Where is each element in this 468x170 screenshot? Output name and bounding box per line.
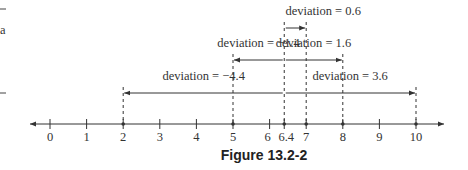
left-margin-fragment: a — [0, 9, 6, 93]
deviation-arrows: deviation = 0.6deviation = −1.4deviation… — [124, 4, 415, 93]
tick-label-10: 10 — [410, 130, 423, 144]
tick-label-6: 6 — [264, 130, 270, 144]
tick-label-4: 4 — [193, 130, 200, 144]
tick-label-7: 7 — [303, 130, 309, 144]
deviation-label: deviation = 1.6 — [276, 36, 351, 50]
figure-caption: Figure 13.2-2 — [0, 147, 468, 163]
tick-label-1: 1 — [83, 130, 89, 144]
deviation-label: deviation = −4.4 — [162, 69, 245, 83]
deviation-label: deviation = 0.6 — [285, 4, 360, 18]
axis-ticks: 01234566.478910 — [47, 119, 422, 144]
deviation-1.6: deviation = 1.6 — [276, 36, 351, 60]
tick-label-5: 5 — [230, 130, 236, 144]
tick-label-6.4: 6.4 — [278, 130, 294, 144]
tick-label-9: 9 — [376, 130, 382, 144]
tick-label-3: 3 — [157, 130, 163, 144]
deviation--4.4: deviation = −4.4 — [124, 69, 283, 93]
tick-label-0: 0 — [47, 130, 53, 144]
margin-letter: a — [0, 23, 6, 37]
deviation-3.6: deviation = 3.6 — [286, 69, 415, 93]
deviation-number-line-diagram: a 01234566.478910 deviation = 0.6deviati… — [0, 0, 468, 170]
tick-label-8: 8 — [340, 130, 346, 144]
deviation-0.6: deviation = 0.6 — [285, 4, 360, 28]
deviation-label: deviation = 3.6 — [312, 69, 387, 83]
tick-label-2: 2 — [120, 130, 126, 144]
